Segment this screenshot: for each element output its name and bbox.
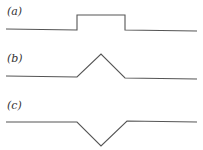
panel-b-label: (b) — [7, 52, 23, 65]
panel-c-label: (c) — [7, 99, 22, 112]
panel-a-label: (a) — [7, 5, 22, 18]
waveform-diagram: (a) (b) (c) — [0, 0, 203, 150]
panel-c-triangular-dip — [6, 121, 197, 146]
panel-b-triangular-peak — [6, 54, 197, 79]
panel-a-rectangular-pulse — [6, 15, 197, 31]
